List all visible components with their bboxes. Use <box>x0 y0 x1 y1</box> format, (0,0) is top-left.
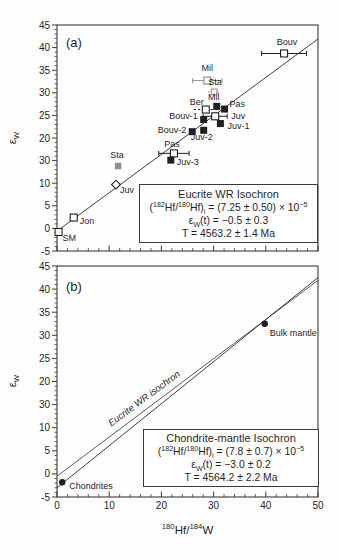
data-point-marker <box>213 103 220 110</box>
data-point-label: Mil <box>202 63 214 73</box>
y-tick-label: 45 <box>39 20 51 31</box>
annotation-line: T = 4564.2 ± 2.2 Ma <box>144 471 318 484</box>
y-tick-label: 0 <box>44 468 50 479</box>
y-tick-label: 30 <box>39 155 51 166</box>
panel-tag: (b) <box>66 279 82 294</box>
data-point-marker <box>70 214 77 221</box>
x-tick-label: 0 <box>54 500 60 511</box>
annotation-line: (182Hf/180Hf)i = (7.8 ± 0.7) × 10−5 <box>144 445 318 458</box>
y-tick-label: 45 <box>39 261 51 272</box>
y-tick-label: 30 <box>39 330 51 341</box>
y-tick-label: 10 <box>39 422 51 433</box>
y-tick-label: 30 <box>39 399 51 410</box>
data-point-label: Bouv-1 <box>169 111 198 121</box>
data-point-label: Sta <box>208 77 222 87</box>
y-tick-label: 30 <box>39 87 51 98</box>
data-point-marker <box>167 157 174 164</box>
data-point-label: Juv-1 <box>227 121 249 131</box>
y-axis-label-panel-a: εW <box>6 116 22 160</box>
y-tick-label: -5 <box>41 492 50 503</box>
data-point-marker <box>59 479 65 485</box>
data-point-label: Jon <box>80 216 95 226</box>
data-point-label: Pas <box>164 139 180 149</box>
data-point-marker <box>281 50 288 57</box>
x-tick-label: 20 <box>156 500 168 511</box>
rotated-isochron-label: Eucrite WR isochron <box>106 368 182 428</box>
y-tick-label: 35 <box>39 65 51 76</box>
data-point-label: Bulk mantle <box>270 328 317 338</box>
data-point-label: SM <box>63 233 77 243</box>
isochron-figure: 454035302520301050-5BouvMilStaMilBerPasJ… <box>0 0 340 559</box>
data-point-marker <box>115 163 121 169</box>
y-tick-label: 35 <box>39 307 51 318</box>
data-point-label: Bouv <box>277 37 298 47</box>
chondrite-mantle-annotation-box: Chondrite-mantle Isochron(182Hf/180Hf)i … <box>143 429 319 487</box>
data-point-label: Pas <box>230 99 246 109</box>
panel-tag: (a) <box>66 35 82 50</box>
eucrite-isochron-annotation-box: Eucrite WR Isochron(182Hf/180Hf)i = (7.2… <box>139 184 318 243</box>
annotation-line: (182Hf/180Hf)i = (7.25 ± 0.50) × 10−5 <box>140 201 317 214</box>
y-axis-label-panel-b: εW <box>6 359 22 403</box>
data-point-marker <box>170 150 177 157</box>
y-tick-label: 0 <box>44 223 50 234</box>
data-point-label: Chondrites <box>69 481 113 491</box>
annotation-title: Eucrite WR Isochron <box>140 188 317 201</box>
y-tick-label: 10 <box>39 178 51 189</box>
y-tick-label: 5 <box>44 200 50 211</box>
x-tick-label: 50 <box>312 500 324 511</box>
data-point-label: Juv <box>120 185 135 195</box>
x-axis-label: 180Hf/184W <box>57 524 318 536</box>
annotation-line: εW(t) = −0.5 ± 0.3 <box>140 214 317 227</box>
y-tick-label: 5 <box>44 445 50 456</box>
data-point-marker <box>221 106 228 113</box>
y-tick-label: -5 <box>41 246 50 257</box>
data-point-label: Mil <box>208 92 220 102</box>
y-tick-label: 20 <box>39 376 51 387</box>
x-tick-label: 10 <box>104 500 116 511</box>
data-point-label: Juv-3 <box>177 157 199 167</box>
data-point-marker <box>262 321 268 327</box>
data-point-label: Bouv-2 <box>158 125 187 135</box>
annotation-line: εW(t) = −3.0 ± 0.2 <box>144 458 318 471</box>
annotation-line: T = 4563.2 ± 1.4 Ma <box>140 227 317 240</box>
annotation-title: Chondrite-mantle Isochron <box>144 432 318 445</box>
data-point-label: Juv-2 <box>191 132 213 142</box>
data-point-marker <box>200 116 207 123</box>
y-tick-label: 40 <box>39 42 51 53</box>
y-tick-label: 25 <box>39 110 51 121</box>
y-tick-label: 25 <box>39 353 51 364</box>
data-point-label: Ber <box>190 97 204 107</box>
y-tick-label: 40 <box>39 284 51 295</box>
y-tick-label: 20 <box>39 133 51 144</box>
data-point-marker <box>55 229 62 236</box>
data-point-marker <box>217 120 224 127</box>
x-tick-label: 40 <box>260 500 272 511</box>
data-point-marker <box>202 106 209 113</box>
x-tick-label: 30 <box>208 500 220 511</box>
data-point-marker <box>212 113 219 120</box>
data-point-label: Sta <box>110 150 124 160</box>
